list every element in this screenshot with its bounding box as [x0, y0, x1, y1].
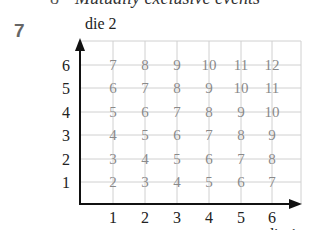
cell-value: 11 [265, 80, 279, 96]
cell-value: 11 [234, 57, 248, 73]
cell-value: 4 [141, 151, 149, 167]
cell-value: 10 [202, 57, 217, 73]
cell-value: 8 [205, 104, 213, 120]
y-tick-label: 4 [62, 104, 70, 121]
cell-value: 6 [205, 151, 213, 167]
cell-value: 8 [141, 57, 149, 73]
cell-value: 6 [173, 127, 181, 143]
cell-value: 8 [237, 127, 245, 143]
y-tick-label: 3 [62, 127, 70, 144]
cell-value: 5 [141, 127, 149, 143]
y-axis-arrow-icon [75, 38, 85, 51]
sample-space-diagram: 7891011126789101156789104567893456782345… [0, 0, 313, 230]
cell-value: 9 [268, 127, 276, 143]
cell-value: 7 [268, 174, 276, 190]
x-tick-label: 1 [109, 209, 117, 226]
cell-value: 9 [205, 80, 213, 96]
cell-value: 10 [265, 104, 280, 120]
cell-value: 5 [205, 174, 213, 190]
cell-value: 9 [237, 104, 245, 120]
x-tick-label: 6 [268, 209, 276, 226]
cell-value: 9 [173, 57, 181, 73]
cell-value: 10 [234, 80, 249, 96]
cell-value: 6 [109, 80, 117, 96]
cell-value: 2 [109, 174, 117, 190]
cell-value: 5 [109, 104, 117, 120]
cell-value: 3 [109, 151, 117, 167]
cell-value: 7 [237, 151, 245, 167]
cell-value: 6 [237, 174, 245, 190]
cell-value: 7 [205, 127, 213, 143]
cell-value: 8 [173, 80, 181, 96]
cell-value: 3 [141, 174, 149, 190]
y-tick-label: 2 [62, 151, 70, 168]
cell-value: 4 [109, 127, 117, 143]
cell-value: 7 [109, 57, 117, 73]
x-tick-label: 2 [141, 209, 149, 226]
x-axis-label: die 1 [266, 226, 298, 230]
cell-value: 4 [173, 174, 181, 190]
x-tick-label: 3 [173, 209, 181, 226]
cell-value: 6 [141, 104, 149, 120]
y-tick-label: 5 [62, 80, 70, 97]
y-tick-label: 1 [62, 174, 70, 191]
cell-value: 7 [173, 104, 181, 120]
cell-value: 5 [173, 151, 181, 167]
x-tick-label: 5 [237, 209, 245, 226]
cell-values: 7891011126789101156789104567893456782345… [109, 57, 279, 190]
y-tick-label: 6 [62, 57, 70, 74]
cell-value: 12 [265, 57, 280, 73]
cell-value: 7 [141, 80, 149, 96]
cell-value: 8 [268, 151, 276, 167]
x-tick-label: 4 [205, 209, 213, 226]
x-axis-arrow-icon [289, 199, 302, 209]
